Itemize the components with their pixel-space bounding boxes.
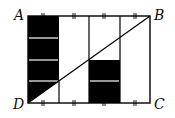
vertex-label-b: B (153, 7, 164, 23)
geometry-diagram: A B C D (0, 0, 175, 118)
vertex-label-a: A (12, 7, 24, 23)
vertex-label-c: C (154, 96, 165, 112)
vertex-label-d: D (12, 96, 24, 112)
